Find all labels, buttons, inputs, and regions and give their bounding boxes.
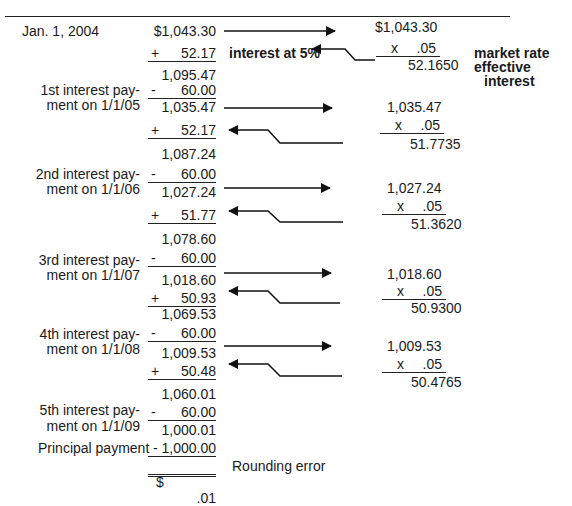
- return-arrow-icon: [229, 130, 343, 143]
- final-value: .01: [197, 490, 216, 506]
- return-arrow-icon: [229, 211, 343, 222]
- return-arrow-icon: [229, 291, 340, 303]
- return-arrow-icon: [229, 364, 342, 376]
- return-arrow-icon: [312, 49, 375, 60]
